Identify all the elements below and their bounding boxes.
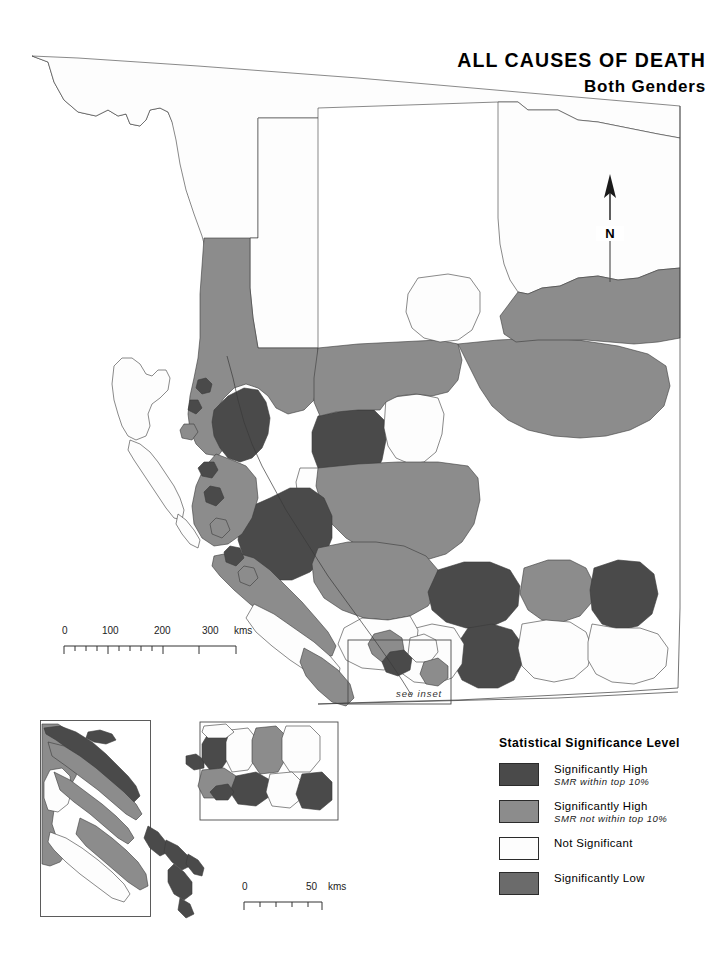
- legend-title: Statistical Significance Level: [499, 736, 724, 750]
- legend-swatch-high-top10: [499, 763, 539, 786]
- legend-item-significantly-low: Significantly Low: [499, 871, 724, 895]
- inset-detail-box: [198, 722, 338, 820]
- legend: Statistical Significance Level Significa…: [499, 736, 724, 906]
- legend-label-high-top10: Significantly High: [554, 762, 649, 776]
- scalebar-main-tick-0: 0: [62, 625, 68, 636]
- legend-label-low: Significantly Low: [554, 871, 645, 885]
- haida-gwaii-islands: [112, 358, 200, 548]
- scalebar-main-tick-300: 300: [202, 625, 219, 636]
- scalebar-inset: 0 50 kms: [238, 876, 368, 916]
- scalebar-main-units: kms: [234, 625, 252, 636]
- legend-note-high: SMR not within top 10%: [554, 813, 667, 825]
- north-arrow-label: N: [596, 226, 624, 241]
- legend-text-high-top10: Significantly High SMR within top 10%: [554, 762, 649, 788]
- map-page: ALL CAUSES OF DEATH Both Genders: [0, 0, 724, 964]
- inset-regions: [42, 724, 204, 918]
- north-arrow: N: [596, 172, 624, 282]
- legend-item-significantly-high: Significantly High SMR not within top 10…: [499, 799, 724, 825]
- scalebar-inset-units: kms: [328, 881, 346, 892]
- legend-swatch-high: [499, 800, 539, 823]
- scalebar-main-tick-200: 200: [154, 625, 171, 636]
- see-inset-label: see inset: [396, 688, 442, 699]
- legend-swatch-not-significant: [499, 837, 539, 860]
- scalebar-inset-tick-0: 0: [242, 881, 248, 892]
- scalebar-main: 0 100 200 300 kms: [58, 620, 258, 660]
- legend-item-significantly-high-top10: Significantly High SMR within top 10%: [499, 762, 724, 788]
- legend-label-not-significant: Not Significant: [554, 836, 633, 850]
- scalebar-inset-tick-50: 50: [306, 881, 318, 892]
- legend-swatch-low: [499, 872, 539, 895]
- main-map: [18, 48, 698, 708]
- legend-note-high-top10: SMR within top 10%: [554, 776, 649, 788]
- legend-label-high: Significantly High: [554, 799, 667, 813]
- scalebar-main-tick-100: 100: [102, 625, 119, 636]
- legend-text-not-significant: Not Significant: [554, 836, 633, 850]
- legend-text-high: Significantly High SMR not within top 10…: [554, 799, 667, 825]
- legend-item-not-significant: Not Significant: [499, 836, 724, 860]
- legend-text-low: Significantly Low: [554, 871, 645, 885]
